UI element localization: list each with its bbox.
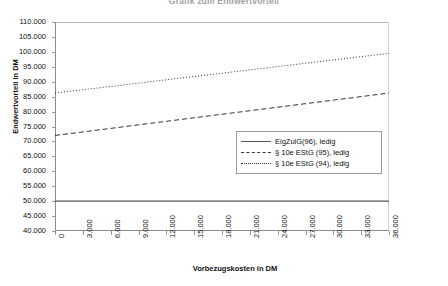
legend-item: EigZulG(96), ledig <box>241 136 376 147</box>
y-axis-tick-label: 100.000 <box>19 48 46 56</box>
x-axis-tick-mark <box>222 231 223 235</box>
x-axis-tick-mark <box>306 231 307 235</box>
legend-item: § 10e EStG (95), ledig <box>241 147 376 158</box>
legend-label: EigZulG(96), ledig <box>275 137 335 146</box>
y-axis-tick-label: 75.000 <box>23 123 46 131</box>
series-line-2 <box>55 53 389 93</box>
y-axis-tick-label: 90.000 <box>23 78 46 86</box>
x-axis-title: Vorbezugskosten in DM <box>120 264 350 273</box>
x-axis-tick-mark <box>55 231 56 235</box>
legend-label: § 10e EStG (94), ledig <box>275 159 349 168</box>
y-axis-labels: 110.000105.000100.00095.00090.00085.0008… <box>0 22 51 231</box>
y-axis-tick-label: 105.000 <box>19 33 46 41</box>
legend-swatch-dotted <box>241 163 271 165</box>
x-axis-tick-mark <box>139 231 140 235</box>
legend-item: § 10e EStG (94), ledig <box>241 158 376 169</box>
chart-container: Grafik zum Endwertvorteil Endwertvorteil… <box>0 0 448 286</box>
x-axis-tick-label: 0 <box>58 234 66 238</box>
y-axis-tick-label: 45.000 <box>23 212 46 220</box>
x-axis-tick-mark <box>361 231 362 235</box>
x-axis-tick-mark <box>389 231 390 235</box>
y-axis-tick-label: 80.000 <box>23 108 46 116</box>
y-axis-tick-label: 55.000 <box>23 182 46 190</box>
chart-title: Grafik zum Endwertvorteil <box>0 0 448 4</box>
y-axis-tick-label: 85.000 <box>23 93 46 101</box>
y-axis-tick-label: 110.000 <box>19 18 46 26</box>
x-axis-tick-mark <box>278 231 279 235</box>
plot-lines <box>55 22 389 231</box>
y-axis-tick-label: 50.000 <box>23 197 46 205</box>
y-axis-tick-label: 95.000 <box>23 63 46 71</box>
y-axis-tick-label: 65.000 <box>23 152 46 160</box>
series-line-1 <box>55 93 389 135</box>
legend-swatch-dashed <box>241 152 271 154</box>
y-axis-tick-label: 70.000 <box>23 137 46 145</box>
x-axis-tick-mark <box>250 231 251 235</box>
legend-swatch-solid <box>241 141 271 143</box>
x-axis-tick-mark <box>111 231 112 235</box>
x-axis-tick-mark <box>83 231 84 235</box>
chart-legend: EigZulG(96), ledig§ 10e EStG (95), ledig… <box>236 131 382 174</box>
y-axis-tick-label: 60.000 <box>23 167 46 175</box>
x-axis-tick-mark <box>194 231 195 235</box>
x-axis-tick-label: 36.000 <box>392 215 400 238</box>
legend-label: § 10e EStG (95), ledig <box>275 148 349 157</box>
